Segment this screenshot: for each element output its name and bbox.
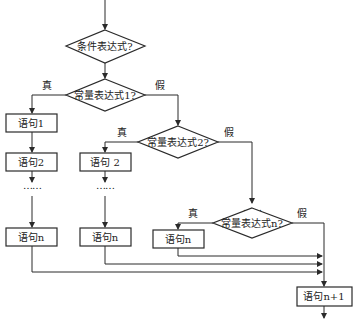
const1-true-label: 真 xyxy=(42,79,52,91)
statement-col1-1-label: 语句1 xyxy=(18,117,44,129)
const2-true-label: 真 xyxy=(117,126,127,138)
decision-const1-label: 常量表达式1? xyxy=(74,89,136,101)
merge-col2 xyxy=(105,246,322,264)
statement-col2-n-label: 语句n xyxy=(92,231,119,243)
statement-next-label: 语句n+1 xyxy=(303,290,344,302)
statement-col3-n-label: 语句n xyxy=(165,233,192,245)
arrow-constn-true xyxy=(178,223,213,229)
constn-false-label: 假 xyxy=(297,207,307,219)
const2-false-label: 假 xyxy=(224,126,234,138)
ellipsis-col2: …… xyxy=(96,180,114,191)
arrow-const2-true xyxy=(105,142,138,152)
const1-false-label: 假 xyxy=(155,79,165,91)
statement-col2-2-label: 语句 2 xyxy=(90,156,120,168)
arrow-const1-false xyxy=(145,95,178,125)
decision-condition-label: 条件表达式? xyxy=(77,40,132,52)
statement-col1-2-label: 语句2 xyxy=(18,156,44,168)
constn-true-label: 真 xyxy=(188,207,198,219)
merge-col3 xyxy=(178,248,322,256)
flowchart: 条件表达式? 常量表达式1? 真 假 语句1 语句2 …… 语句n 常量表达式2… xyxy=(0,0,358,319)
arrow-const1-true xyxy=(32,95,66,113)
merge-col1 xyxy=(32,246,322,272)
decision-const2-label: 常量表达式2? xyxy=(147,136,209,148)
statement-col1-n-label: 语句n xyxy=(18,231,45,243)
arrow-constn-false xyxy=(292,223,324,286)
decision-constn-label: 常量表达式n? xyxy=(221,217,283,229)
ellipsis-col1: …… xyxy=(23,180,41,191)
arrow-const2-false xyxy=(218,142,252,203)
